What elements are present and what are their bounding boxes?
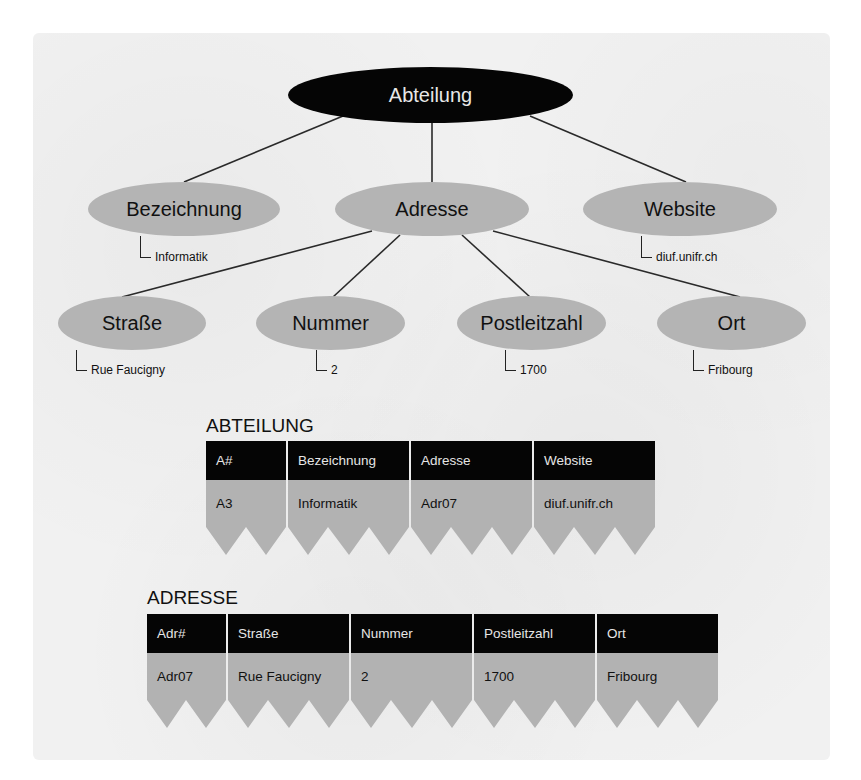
bracket-connector: [316, 350, 327, 371]
table-adresse: Adr# Adr07 Straße Rue Faucigny Nummer 2 …: [147, 614, 718, 728]
node-label: Nummer: [292, 312, 369, 335]
node-label: Website: [644, 198, 716, 221]
column-header: Nummer: [351, 614, 472, 653]
value-ort: Fribourg: [693, 350, 783, 376]
bracket-connector: [76, 350, 87, 371]
node-abteilung: Abteilung: [288, 67, 573, 123]
zigzag-edge: [147, 700, 226, 728]
column-header: Postleitzahl: [474, 614, 595, 653]
table-cell: diuf.unifr.ch: [534, 480, 655, 527]
zigzag-edge: [474, 700, 595, 728]
zigzag-edge: [411, 527, 532, 555]
table-cell: Fribourg: [597, 653, 718, 700]
bracket-connector: [140, 236, 151, 258]
value-nummer: 2: [316, 350, 376, 376]
table-cell: Adr07: [147, 653, 226, 700]
node-label: Adresse: [395, 198, 468, 221]
table-column: Postleitzahl 1700: [474, 614, 595, 728]
table-title-abteilung: ABTEILUNG: [206, 415, 314, 437]
edge-abteilung-website: [530, 116, 686, 182]
node-website: Website: [583, 182, 777, 236]
table-column: Adr# Adr07: [147, 614, 226, 728]
node-bezeichnung: Bezeichnung: [88, 182, 280, 236]
edge-adresse-nummer: [333, 235, 400, 297]
value-bezeichnung: Informatik: [140, 236, 260, 262]
table-cell: Adr07: [411, 480, 532, 527]
value-postleitzahl: 1700: [505, 350, 585, 376]
node-strasse: Straße: [58, 296, 206, 350]
bracket-connector: [641, 236, 652, 258]
table-column: Bezeichnung Informatik: [288, 441, 409, 555]
node-adresse: Adresse: [335, 182, 529, 236]
zigzag-edge: [351, 700, 472, 728]
node-label: Straße: [102, 312, 162, 335]
table-title-adresse: ADRESSE: [147, 587, 238, 609]
column-header: Adr#: [147, 614, 226, 653]
node-label: Abteilung: [389, 84, 472, 107]
zigzag-edge: [228, 700, 349, 728]
column-header: Adresse: [411, 441, 532, 480]
table-column: A# A3: [206, 441, 286, 555]
node-postleitzahl: Postleitzahl: [457, 296, 606, 350]
zigzag-edge: [597, 700, 718, 728]
column-header: Bezeichnung: [288, 441, 409, 480]
edge-abteilung-bezeichnung: [184, 116, 343, 182]
table-cell: Rue Faucigny: [228, 653, 349, 700]
edge-adresse-postleitzahl: [462, 235, 530, 297]
table-abteilung: A# A3 Bezeichnung Informatik Adresse Adr…: [206, 441, 655, 555]
node-nummer: Nummer: [256, 296, 405, 350]
table-cell: 1700: [474, 653, 595, 700]
node-label: Ort: [718, 312, 746, 335]
node-ort: Ort: [657, 296, 806, 350]
value-strasse: Rue Faucigny: [76, 350, 196, 376]
zigzag-edge: [288, 527, 409, 555]
zigzag-edge: [534, 527, 655, 555]
table-cell: Informatik: [288, 480, 409, 527]
table-cell: A3: [206, 480, 286, 527]
zigzag-edge: [206, 527, 286, 555]
column-header: A#: [206, 441, 286, 480]
table-column: Straße Rue Faucigny: [228, 614, 349, 728]
bracket-connector: [693, 350, 704, 371]
column-header: Website: [534, 441, 655, 480]
bracket-connector: [505, 350, 516, 371]
table-cell: 2: [351, 653, 472, 700]
column-header: Straße: [228, 614, 349, 653]
table-column: Nummer 2: [351, 614, 472, 728]
node-label: Postleitzahl: [480, 312, 582, 335]
table-column: Adresse Adr07: [411, 441, 532, 555]
node-label: Bezeichnung: [126, 198, 242, 221]
value-website: diuf.unifr.ch: [641, 236, 781, 262]
table-column: Website diuf.unifr.ch: [534, 441, 655, 555]
table-column: Ort Fribourg: [597, 614, 718, 728]
column-header: Ort: [597, 614, 718, 653]
